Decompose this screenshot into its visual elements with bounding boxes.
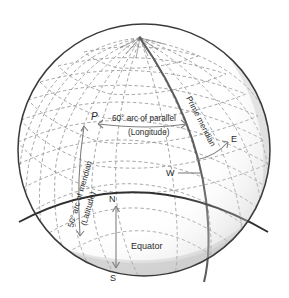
label-arc-of-parallel: 60° arc of parallel bbox=[112, 114, 176, 123]
globe-svg: P 60° arc of parallel (Longitude) 50° ar… bbox=[0, 0, 289, 298]
sphere-outline bbox=[18, 24, 270, 276]
globe-figure: P 60° arc of parallel (Longitude) 50° ar… bbox=[0, 0, 289, 298]
label-point-p: P bbox=[91, 111, 98, 122]
label-direction-south: S bbox=[110, 273, 116, 283]
label-direction-west: W bbox=[166, 168, 175, 178]
label-direction-north: N bbox=[109, 194, 116, 204]
label-arc-of-parallel-sub: (Longitude) bbox=[128, 128, 170, 137]
label-direction-east: E bbox=[231, 134, 237, 144]
label-equator: Equator bbox=[131, 241, 163, 251]
